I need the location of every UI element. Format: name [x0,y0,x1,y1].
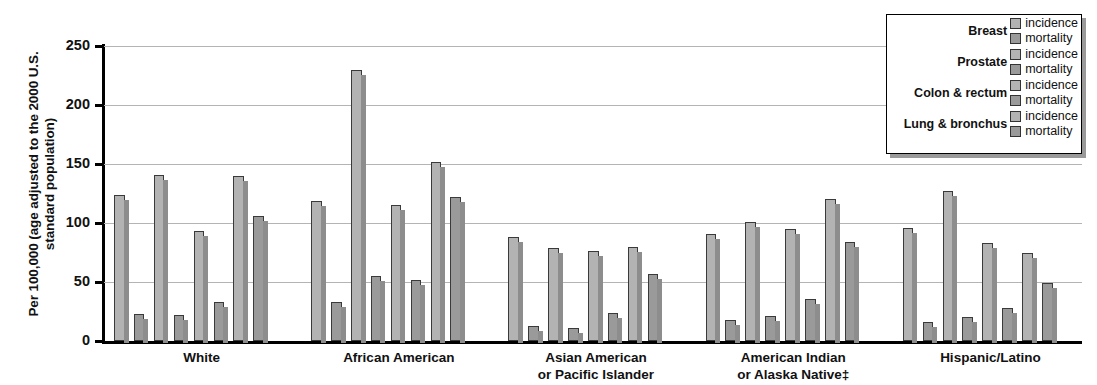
bar [648,274,659,341]
bar [608,313,619,341]
legend-cancer-label: Breast [968,24,1007,38]
bar [805,299,816,341]
legend-row: Colon & rectumincidencemortality [887,77,1081,108]
legend-entry-label: mortality [1025,32,1072,44]
bar [588,251,599,341]
bar [431,162,442,341]
category-label-line: Asian American [508,350,683,367]
legend-entry-label: mortality [1025,125,1072,137]
y-axis-tick-label: 250 [46,37,90,53]
y-axis-tick-label: 100 [46,214,90,230]
bar [982,243,993,341]
legend-swatch-group: incidencemortality [1010,110,1078,138]
legend-entry-label: incidence [1025,110,1078,122]
bar [154,175,165,341]
legend-swatch-mortality [1010,95,1021,106]
y-axis-tick-label: 200 [46,96,90,112]
bar [331,302,342,341]
y-axis-tick-label: 0 [46,332,90,348]
bar [450,197,461,341]
bar [962,317,973,341]
bar [233,176,244,341]
legend-entry-label: incidence [1025,48,1078,60]
legend-swatch-mortality [1010,64,1021,75]
bar-group [706,46,881,341]
y-axis-tick [95,222,104,225]
legend-cancer-label: Prostate [957,55,1007,69]
legend-row: Lung & bronchusincidencemortality [887,108,1081,139]
bar-group [311,46,486,341]
bar [845,242,856,341]
bar [903,228,914,341]
bar [725,320,736,341]
category-label-line: or Alaska Native‡ [706,367,881,384]
y-axis-tick [95,45,104,48]
bar [253,216,264,341]
bar [134,314,145,341]
bar [923,322,934,341]
category-label-line: or Pacific Islander [508,367,683,384]
legend-entry: mortality [1010,94,1078,107]
bar [765,316,776,341]
legend-entry-label: incidence [1025,17,1078,29]
bar-group [508,46,683,341]
bar [1002,308,1013,341]
bar [311,201,322,341]
legend-swatch-group: incidencemortality [1010,79,1078,107]
category-label-line: White [114,350,289,367]
legend-entry: incidence [1010,110,1078,123]
x-axis-category-label: American Indianor Alaska Native‡ [706,350,881,383]
legend-swatch-incidence [1010,111,1021,122]
legend-entry-label: mortality [1025,94,1072,106]
bar [528,326,539,341]
bar [351,70,362,341]
cancer-rates-bar-chart: Per 100,000 (age adjusted to the 2000 U.… [0,0,1097,385]
y-axis-title: Per 100,000 (age adjusted to the 2000 U.… [26,24,58,344]
y-axis-tick [95,340,104,343]
bar [508,237,519,341]
legend-cancer-label: Lung & bronchus [904,117,1007,131]
category-label-line: Hispanic/Latino [903,350,1078,367]
legend-entry: mortality [1010,125,1078,138]
x-axis-category-label: Hispanic/Latino [903,350,1078,367]
legend-swatch-mortality [1010,126,1021,137]
bar [1042,283,1053,341]
bar [785,229,796,341]
bar [1022,253,1033,342]
legend-swatch-group: incidencemortality [1010,48,1078,76]
bar [214,302,225,341]
bar [628,247,639,341]
bar [548,248,559,341]
category-label-line: American Indian [706,350,881,367]
x-axis-category-label: Asian Americanor Pacific Islander [508,350,683,383]
y-axis-tick [95,163,104,166]
category-label-line: African American [311,350,486,367]
x-axis-category-label: White [114,350,289,367]
bar-group [114,46,289,341]
bar [194,231,205,341]
x-axis-category-label: African American [311,350,486,367]
legend-row: Prostateincidencemortality [887,46,1081,77]
legend-swatch-group: incidencemortality [1010,17,1078,45]
legend-entry: incidence [1010,48,1078,61]
bar [371,276,382,341]
legend-entry: mortality [1010,63,1078,76]
bar [568,328,579,341]
legend-entry-label: incidence [1025,79,1078,91]
bar [114,195,125,341]
y-axis-tick-label: 150 [46,155,90,171]
legend-entry: incidence [1010,17,1078,30]
bar [391,205,402,341]
legend-swatch-mortality [1010,33,1021,44]
legend-entry: incidence [1010,79,1078,92]
bar [745,222,756,341]
legend-swatch-incidence [1010,18,1021,29]
bar [411,280,422,341]
y-axis-tick [95,281,104,284]
bar [706,234,717,341]
legend-entry: mortality [1010,32,1078,45]
bar [174,315,185,341]
legend-row: Breastincidencemortality [887,15,1081,46]
legend-cancer-label: Colon & rectum [914,86,1007,100]
y-axis-tick-label: 50 [46,273,90,289]
